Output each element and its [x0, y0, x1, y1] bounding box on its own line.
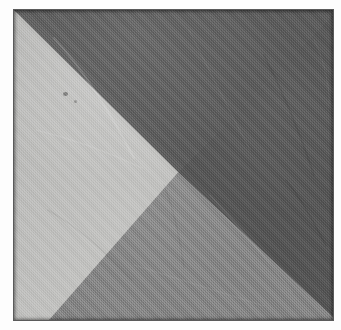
image-description: Photograph of a square woven cloth divid… [0, 0, 1, 1]
fabric-panel [14, 10, 333, 320]
photograph-canvas: Photograph of a square woven cloth divid… [0, 0, 341, 330]
